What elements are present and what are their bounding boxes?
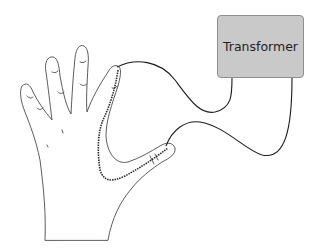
wire-thumb: [166, 78, 292, 156]
transformer-label: Transformer: [223, 39, 298, 54]
wire-index: [117, 62, 232, 113]
hand-transformer-diagram: Transformer: [0, 0, 322, 249]
transformer-box: Transformer: [217, 15, 304, 78]
